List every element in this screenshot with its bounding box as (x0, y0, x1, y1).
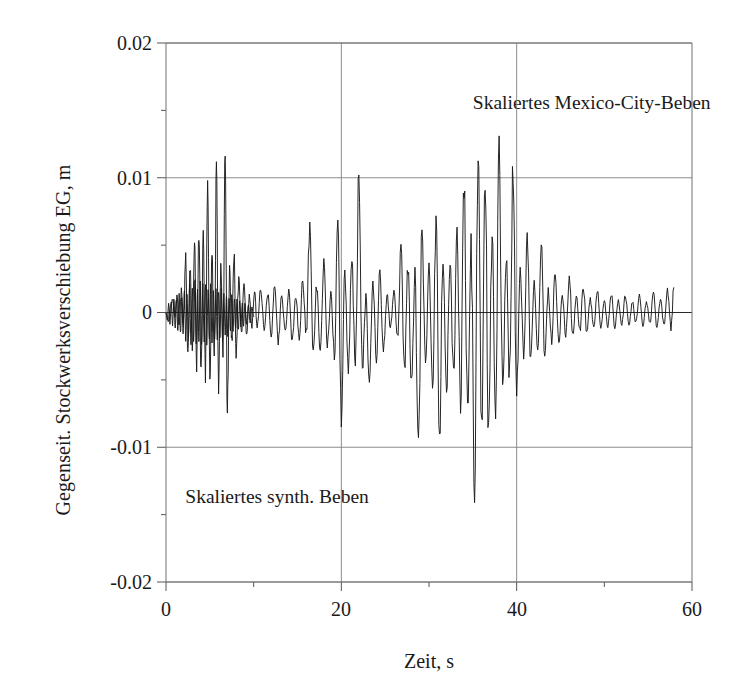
chart-figure: Gegenseit. Stockwerksverschiebung EG, m … (0, 0, 740, 698)
plot-canvas (0, 0, 740, 698)
